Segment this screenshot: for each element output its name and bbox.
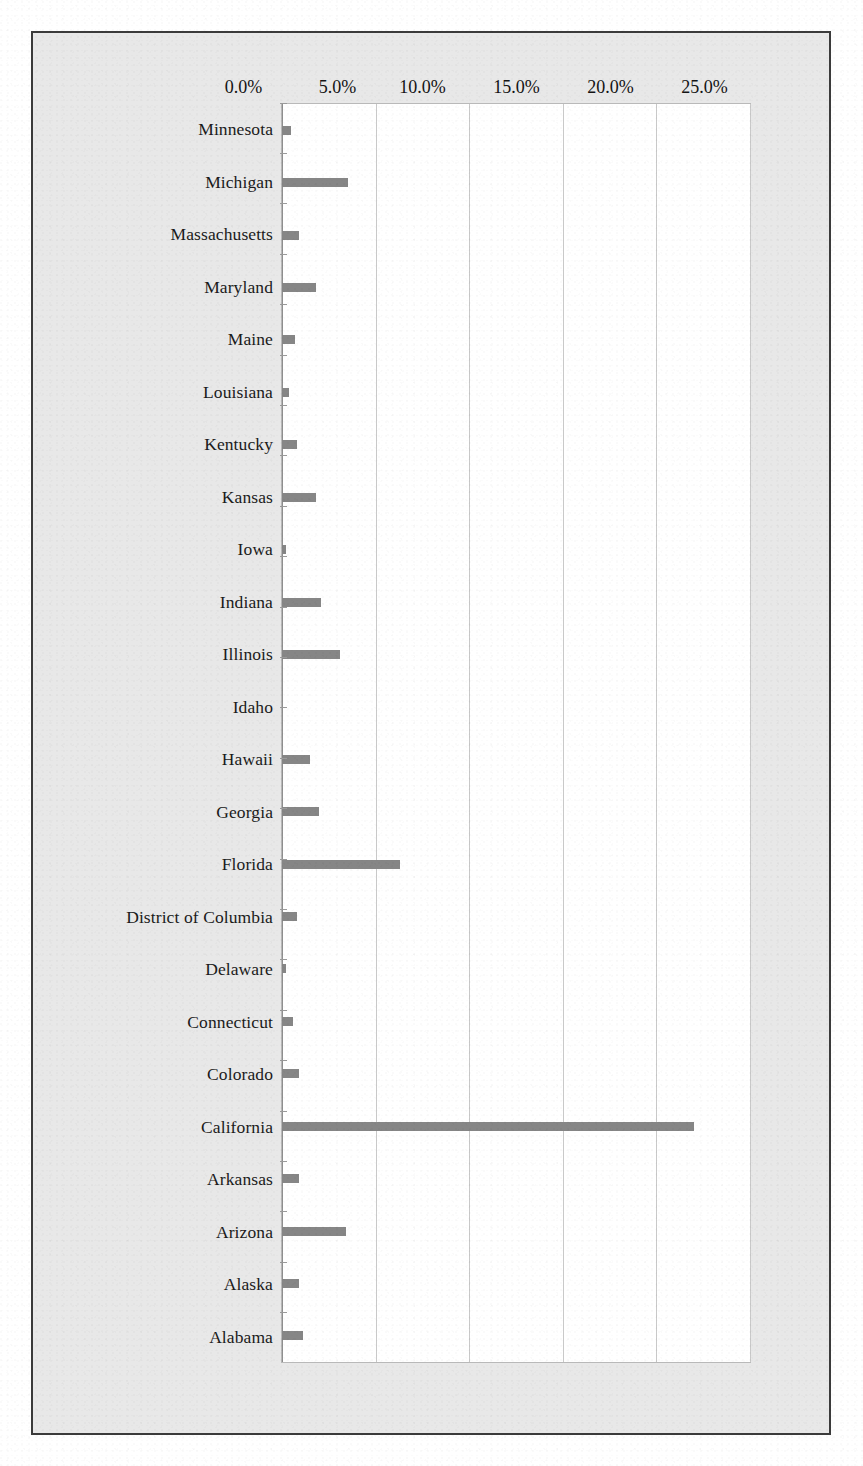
category-label: California [201, 1116, 273, 1137]
tick-mark [280, 506, 287, 556]
bar-slot [282, 943, 750, 995]
tick-mark [280, 960, 287, 1010]
value-tick-label: 15.0% [493, 76, 540, 97]
tick-mark [280, 103, 287, 153]
tick-mark [280, 254, 287, 304]
category-label-slot: Florida [31, 838, 279, 891]
tick-mark [280, 859, 287, 909]
category-label-slot: Georgia [31, 786, 279, 839]
category-label-slot: Delaware [31, 943, 279, 996]
tick-mark [280, 1212, 287, 1262]
plot-area [281, 103, 751, 1363]
tick-mark [280, 355, 287, 405]
gridline [750, 104, 751, 1362]
bar-slot [282, 209, 750, 261]
category-label: Alabama [209, 1326, 273, 1347]
category-label: Arkansas [207, 1169, 273, 1190]
category-label: Minnesota [198, 119, 273, 140]
bar-slot [282, 1100, 750, 1152]
category-label-slot: Kentucky [31, 418, 279, 471]
bar[interactable] [282, 807, 319, 816]
category-label: Georgia [216, 801, 273, 822]
category-tick-marks [280, 103, 287, 1363]
category-label: Connecticut [187, 1011, 273, 1032]
bar-slot [282, 156, 750, 208]
bar[interactable] [282, 493, 316, 502]
tick-mark [280, 1111, 287, 1161]
category-label: Kentucky [204, 434, 273, 455]
bar-slot [282, 523, 750, 575]
bar-slot [282, 995, 750, 1047]
category-label-slot: Louisiana [31, 366, 279, 419]
category-label-slot: Maine [31, 313, 279, 366]
tick-mark [280, 910, 287, 960]
category-label-slot: Colorado [31, 1048, 279, 1101]
category-label-slot: Connecticut [31, 996, 279, 1049]
tick-mark [280, 809, 287, 859]
category-label: Illinois [223, 644, 273, 665]
category-label-slot: Idaho [31, 681, 279, 734]
tick-mark [280, 1262, 287, 1312]
category-label: Maine [228, 329, 273, 350]
bar[interactable] [282, 178, 348, 187]
bar-slot [282, 890, 750, 942]
category-label-slot: Hawaii [31, 733, 279, 786]
bar-slot [282, 1310, 750, 1362]
tick-mark [280, 657, 287, 707]
category-label-slot: Michigan [31, 156, 279, 209]
category-label: Colorado [207, 1064, 273, 1085]
category-label-slot: Illinois [31, 628, 279, 681]
category-label: Louisiana [203, 381, 273, 402]
category-label: Hawaii [222, 749, 273, 770]
bar-slot [282, 261, 750, 313]
tick-mark [280, 305, 287, 355]
bar-slot [282, 1205, 750, 1257]
tick-mark [280, 1313, 287, 1363]
chart-page: 0.0%5.0%10.0%15.0%20.0%25.0% MinnesotaMi… [0, 0, 863, 1466]
bar-slot [282, 1152, 750, 1204]
value-tick-label: 10.0% [399, 76, 446, 97]
category-label: Kansas [222, 486, 273, 507]
value-tick-label: 20.0% [587, 76, 634, 97]
category-label-slot: Alabama [31, 1311, 279, 1364]
bar-slot [282, 1048, 750, 1100]
category-label-slot: Arizona [31, 1206, 279, 1259]
bar[interactable] [282, 1122, 694, 1131]
rotated-chart-canvas: 0.0%5.0%10.0%15.0%20.0%25.0% MinnesotaMi… [31, 31, 831, 1435]
bar[interactable] [282, 650, 340, 659]
bar[interactable] [282, 598, 321, 607]
category-label-slot: Massachusetts [31, 208, 279, 261]
category-label-slot: District of Columbia [31, 891, 279, 944]
chart-area: 0.0%5.0%10.0%15.0%20.0%25.0% MinnesotaMi… [31, 31, 831, 1435]
tick-mark [280, 1010, 287, 1060]
category-label: Arizona [216, 1221, 273, 1242]
bar-slot [282, 314, 750, 366]
tick-mark [280, 607, 287, 657]
bar-slot [282, 576, 750, 628]
category-label-slot: Kansas [31, 471, 279, 524]
category-label-slot: Arkansas [31, 1153, 279, 1206]
bar-slot [282, 471, 750, 523]
category-label: Delaware [205, 959, 273, 980]
tick-mark [280, 204, 287, 254]
tick-mark [280, 557, 287, 607]
bar-slot [282, 733, 750, 785]
category-label-slot: Indiana [31, 576, 279, 629]
category-label-slot: Iowa [31, 523, 279, 576]
category-label-slot: Minnesota [31, 103, 279, 156]
bar-slot [282, 628, 750, 680]
bar-slot [282, 419, 750, 471]
bar[interactable] [282, 283, 316, 292]
bar[interactable] [282, 1227, 346, 1236]
value-tick-label: 0.0% [225, 76, 263, 97]
tick-mark [280, 456, 287, 506]
bar-series [282, 104, 750, 1362]
category-label-slot: Maryland [31, 261, 279, 314]
category-label: Idaho [233, 696, 273, 717]
category-label: Indiana [220, 591, 273, 612]
bar-slot [282, 366, 750, 418]
bar[interactable] [282, 860, 400, 869]
bar-slot [282, 681, 750, 733]
category-label: District of Columbia [126, 906, 273, 927]
bar-slot [282, 104, 750, 156]
